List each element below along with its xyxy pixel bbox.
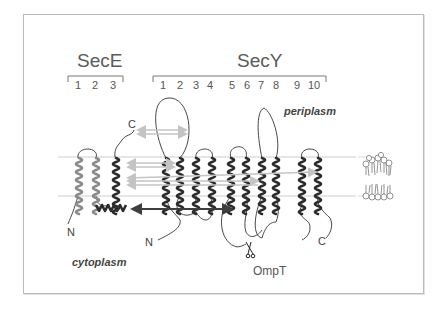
topology-drawing (0, 0, 446, 322)
secE-amphipathic-helix (96, 205, 126, 211)
diagram-canvas: SecE SecY 1 2 3 1 2 3 4 5 6 7 8 9 10 per… (0, 0, 446, 322)
secY-bracket (153, 76, 326, 82)
scissors-icon (246, 242, 255, 258)
secE-c-tail (115, 130, 134, 157)
membrane-boundaries (58, 157, 356, 196)
secE-bracket (68, 76, 123, 82)
lipid-bilayer-icon (358, 152, 393, 200)
